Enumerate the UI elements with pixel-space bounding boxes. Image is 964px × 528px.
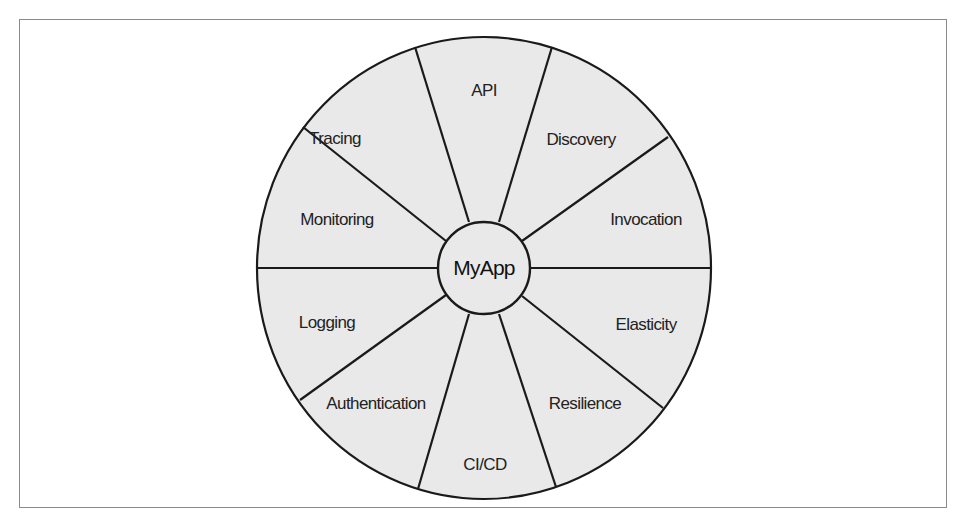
segment-label-elasticity: Elasticity (615, 315, 676, 335)
segment-label-monitoring: Monitoring (300, 210, 373, 230)
segment-label-discovery: Discovery (546, 130, 615, 150)
segment-label-tracing: Tracing (309, 129, 361, 149)
segment-label-invocation: Invocation (610, 210, 682, 230)
segment-label-cicd: CI/CD (463, 455, 506, 475)
segment-label-resilience: Resilience (549, 394, 621, 414)
segment-label-api: API (471, 81, 497, 101)
center-label: MyApp (453, 256, 514, 280)
segment-label-authentication: Authentication (326, 394, 425, 414)
segment-label-logging: Logging (299, 313, 355, 333)
